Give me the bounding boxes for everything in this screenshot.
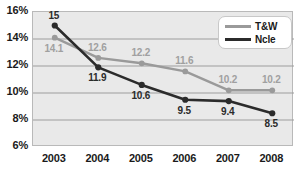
data-label: 10.6: [121, 90, 161, 101]
x-tick-label: 2006: [163, 152, 205, 164]
data-label: 12.6: [77, 42, 117, 53]
y-tick-label: 8%: [0, 112, 28, 124]
data-point: [139, 60, 145, 66]
x-tick-label: 2003: [33, 152, 75, 164]
y-tick-label: 10%: [0, 85, 28, 97]
data-label: 15: [34, 10, 74, 21]
x-tick-label: 2004: [76, 152, 118, 164]
data-label: 12.2: [121, 47, 161, 58]
data-point: [95, 64, 101, 70]
data-point: [52, 35, 58, 41]
data-label: 8.5: [251, 118, 291, 129]
y-tick-label: 12%: [0, 58, 28, 70]
data-label: 14.1: [34, 43, 74, 54]
data-point: [95, 55, 101, 61]
data-point: [182, 69, 188, 75]
y-tick-label: 16%: [0, 4, 28, 16]
data-point: [269, 110, 275, 116]
data-point: [226, 98, 232, 104]
y-tick-label: 6%: [0, 139, 28, 151]
x-tick-label: 2008: [250, 152, 292, 164]
data-point: [269, 87, 275, 93]
data-label: 11.6: [164, 55, 204, 66]
x-tick-label: 2005: [120, 152, 162, 164]
legend-label-tw: T&W: [255, 21, 277, 32]
legend-item-ncle: Ncle: [225, 33, 275, 46]
legend-swatch-ncle: [225, 38, 251, 41]
data-label: 11.9: [77, 72, 117, 83]
data-point: [226, 87, 232, 93]
line-chart: 6%8%10%12%14%16% 20032004200520062007200…: [0, 0, 301, 175]
data-label: 9.4: [208, 106, 248, 117]
legend-swatch-tw: [225, 25, 251, 28]
x-tick-label: 2007: [207, 152, 249, 164]
y-tick-label: 14%: [0, 31, 28, 43]
data-label: 10.2: [208, 74, 248, 85]
data-point: [52, 22, 58, 28]
data-point: [139, 82, 145, 88]
data-point: [182, 97, 188, 103]
data-label: 9.5: [164, 105, 204, 116]
legend-label-ncle: Ncle: [255, 34, 275, 45]
legend: T&W Ncle: [218, 16, 292, 49]
legend-item-tw: T&W: [225, 20, 277, 33]
data-label: 10.2: [251, 74, 291, 85]
